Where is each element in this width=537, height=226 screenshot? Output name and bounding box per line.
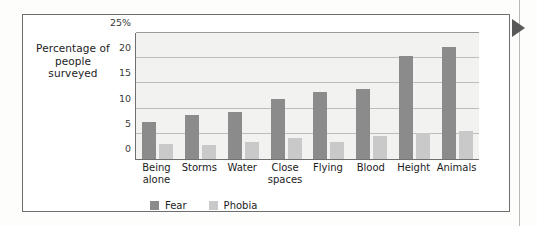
x-axis-labels: BeingaloneStormsWaterClosespacesFlyingBl… [135,162,478,185]
bar-group [179,33,222,159]
y-axis-tick-label: 15 [119,67,131,78]
right-triangle-marker-icon [512,19,525,37]
bar-group [350,33,393,159]
chart-legend: FearPhobia [150,200,257,211]
x-axis-label: Closespaces [264,162,307,185]
x-axis-label: Beingalone [135,162,178,185]
bar-phobia [159,144,173,159]
bar-fear [356,89,370,159]
y-axis-tick-label: 10 [119,92,131,103]
bar-phobia [245,142,259,159]
legend-swatch [150,201,159,210]
plot-area: 0510152025% [135,33,479,160]
bar-phobia [202,145,216,159]
bar-fear [313,92,327,159]
x-axis-label: Blood [349,162,392,185]
bar-groups [136,33,479,159]
x-axis-label: Animals [435,162,478,185]
y-axis-tick-label: 25% [110,17,131,28]
bar-phobia [288,138,302,159]
bar-group [393,33,436,159]
bar-group [222,33,265,159]
bar-chart: Percentage of people surveyed 0510152025… [22,14,510,212]
bar-group [265,33,308,159]
legend-item-phobia: Phobia [209,200,258,211]
legend-label: Fear [165,200,187,211]
legend-label: Phobia [224,200,258,211]
legend-swatch [209,201,218,210]
bar-fear [185,115,199,159]
bar-phobia [373,136,387,159]
y-axis-tick-label: 20 [119,42,131,53]
y-axis-tick-label: 0 [125,143,131,154]
x-axis-label: Height [392,162,435,185]
y-axis-title: Percentage of people surveyed [32,42,114,80]
bar-fear [442,47,456,159]
bar-phobia [330,142,344,159]
x-axis-label: Water [221,162,264,185]
bar-fear [399,56,413,159]
bar-phobia [416,133,430,159]
bar-fear [271,99,285,159]
bar-fear [142,122,156,159]
bar-group [436,33,479,159]
y-axis-tick-label: 5 [125,117,131,128]
bar-fear [228,112,242,159]
legend-item-fear: Fear [150,200,187,211]
bar-phobia [459,131,473,159]
x-axis-label: Flying [307,162,350,185]
x-axis-label: Storms [178,162,221,185]
bar-group [308,33,351,159]
bar-group [136,33,179,159]
